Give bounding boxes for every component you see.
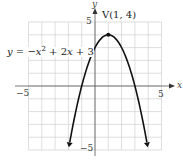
curve-arrow-left-icon [67,142,73,147]
y-axis-label: y [92,0,97,9]
eq-part: = − [13,46,36,57]
x-axis-arrow-icon [169,84,175,89]
x-tick-min: −5 [16,89,29,98]
eq-part: + 3 [73,46,94,57]
equation-label: y = −x2 + 2x + 3 [7,47,94,57]
vertex-point [106,33,110,37]
y-tick-max: 5 [86,17,92,26]
x-tick-max: 5 [158,90,164,99]
x-axis-label: x [177,81,182,90]
y-tick-min: −5 [80,144,93,153]
eq-part: + 2 [46,46,67,57]
vertex-label: V(1, 4) [102,10,136,20]
curve-arrow-right-icon [144,142,150,147]
